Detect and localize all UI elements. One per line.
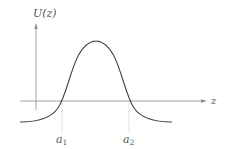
y-axis (34, 23, 37, 110)
x-axis-label: z (210, 95, 217, 106)
y-axis-arrow-icon (34, 23, 37, 29)
a1-label: a1 (56, 133, 67, 147)
y-axis-label: U(z) (33, 7, 57, 20)
potential-diagram: U(z) z a1 a2 (0, 0, 226, 149)
potential-curve (20, 41, 172, 122)
x-axis-arrow-icon (201, 99, 207, 102)
x-axis (20, 99, 207, 102)
a2-label: a2 (123, 133, 135, 147)
